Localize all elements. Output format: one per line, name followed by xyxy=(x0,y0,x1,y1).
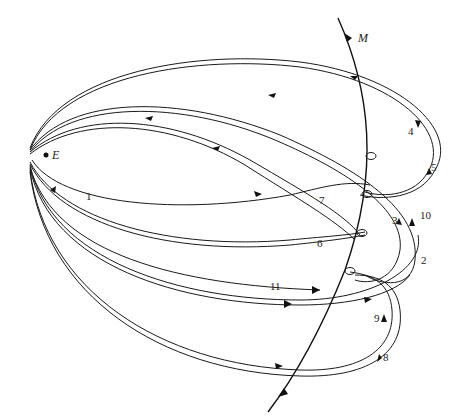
label-1: 1 xyxy=(86,190,92,202)
arrow-4 xyxy=(415,120,421,128)
trajectory-6 xyxy=(30,128,355,240)
arrow-inner xyxy=(145,116,153,121)
label-6: 6 xyxy=(317,237,323,249)
moon-orbit-arrow-top xyxy=(344,33,352,42)
label-8: 8 xyxy=(383,351,389,363)
arrow-8 xyxy=(377,354,382,362)
label-3: 3 xyxy=(392,214,398,226)
orbit-diagram: E M 1 2 3 4 5 6 7 8 9 10 11 xyxy=(0,0,459,419)
trajectory-7 xyxy=(30,123,360,235)
label-5: 5 xyxy=(431,161,437,173)
arrow-2 xyxy=(284,300,292,308)
trajectory-4 xyxy=(30,59,441,198)
label-7: 7 xyxy=(319,194,325,206)
label-10: 10 xyxy=(420,209,432,221)
earth-dot xyxy=(44,153,49,158)
arrow-10 xyxy=(409,218,415,226)
arrow-mid xyxy=(268,93,276,98)
moon-orbit-arrow-bottom xyxy=(278,388,288,397)
trajectory-11b xyxy=(30,168,410,305)
arrow-11 xyxy=(312,286,320,294)
trajectory-band-6a xyxy=(30,162,365,242)
trajectory-8 xyxy=(30,170,392,370)
arrow-1b xyxy=(254,191,262,197)
earth-label: E xyxy=(51,148,60,162)
trajectory-9 xyxy=(30,172,400,376)
arrow-8b xyxy=(275,363,283,369)
label-11: 11 xyxy=(270,280,281,292)
loop-d xyxy=(345,268,355,275)
arrow-9 xyxy=(381,314,387,322)
label-2: 2 xyxy=(421,254,427,266)
label-9: 9 xyxy=(374,312,380,324)
label-4: 4 xyxy=(408,125,414,137)
moon-orbit-label: M xyxy=(357,31,369,45)
